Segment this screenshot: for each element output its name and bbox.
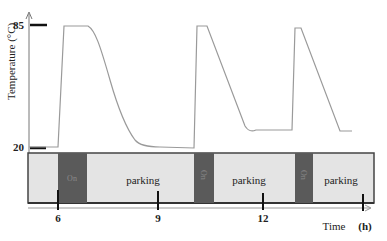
x-axis-label: Time xyxy=(323,220,346,232)
x-tick-label-9: 9 xyxy=(155,212,161,224)
segment-parking-label-2: parking xyxy=(232,174,266,186)
x-axis-unit: (h) xyxy=(358,220,372,233)
segment-on-label-2: On xyxy=(199,170,208,180)
y-axis-label: Temperature (°C) xyxy=(5,22,18,100)
segment-parking-label-1: parking xyxy=(126,174,160,186)
segment-parking-label-3: parking xyxy=(324,174,358,186)
segment-on-label-3: On xyxy=(299,170,308,180)
temperature-timeline-diagram: 85 20 Temperature (°C) On On On parking … xyxy=(0,0,387,241)
x-tick-label-6: 6 xyxy=(55,212,61,224)
x-tick-label-12: 12 xyxy=(258,212,270,224)
segment-on-label-1: On xyxy=(67,174,77,183)
temperature-curve xyxy=(29,26,352,148)
y-tick-label-20: 20 xyxy=(13,141,25,153)
